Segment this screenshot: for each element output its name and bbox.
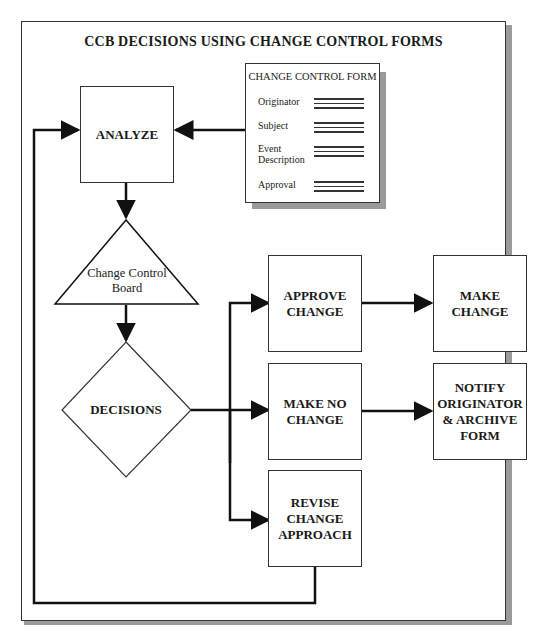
form-label-originator: Originator — [258, 96, 300, 107]
revise-change-box: REVISE CHANGE APPROACH — [268, 470, 362, 567]
analyze-label: ANALYZE — [96, 127, 158, 143]
analyze-box: ANALYZE — [80, 86, 174, 183]
form-label-subject: Subject — [258, 120, 288, 131]
make-change-box: MAKE CHANGE — [433, 255, 527, 352]
change-control-form: CHANGE CONTROL FORM Originator Subject E… — [245, 63, 380, 203]
form-lines-originator — [314, 98, 364, 112]
revise-change-label: REVISE CHANGE APPROACH — [271, 495, 359, 543]
form-title: CHANGE CONTROL FORM — [246, 71, 379, 82]
form-lines-subject — [314, 122, 364, 136]
decisions-label: DECISIONS — [70, 402, 182, 418]
notify-archive-label: NOTIFY ORIGINATOR & ARCHIVE FORM — [435, 380, 525, 444]
arrow-decisions-to-approve — [230, 303, 268, 463]
form-lines-approval — [314, 181, 364, 195]
form-label-event-description: Event Description — [258, 143, 318, 165]
form-lines-event-description — [314, 146, 364, 160]
notify-archive-box: NOTIFY ORIGINATOR & ARCHIVE FORM — [433, 363, 527, 460]
make-change-label: MAKE CHANGE — [445, 288, 515, 320]
arrow-decisions-to-revise — [230, 410, 268, 520]
approve-change-label: APPROVE CHANGE — [275, 288, 355, 320]
approve-change-box: APPROVE CHANGE — [268, 255, 362, 352]
make-no-change-label: MAKE NO CHANGE — [275, 396, 355, 428]
form-label-approval: Approval — [258, 179, 296, 190]
make-no-change-box: MAKE NO CHANGE — [268, 363, 362, 460]
ccb-label: Change Control Board — [84, 266, 170, 296]
